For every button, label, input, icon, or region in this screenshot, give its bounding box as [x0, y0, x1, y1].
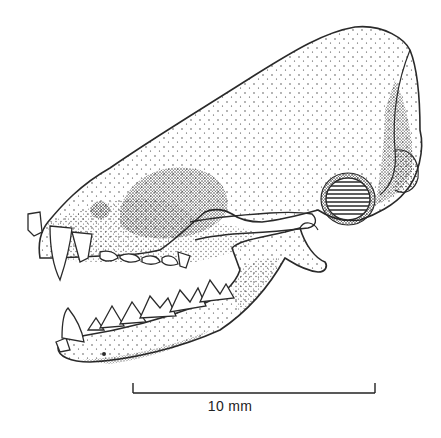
cranium	[39, 27, 421, 263]
lower-canine	[62, 308, 84, 342]
upper-incisors	[28, 212, 42, 236]
foramen-shading	[90, 201, 110, 219]
scale-bar	[133, 383, 375, 393]
lower-molar-1	[140, 296, 176, 318]
auditory-bulla	[320, 173, 376, 225]
mental-foramen	[102, 352, 106, 356]
scale-bar-label: 10 mm	[180, 398, 280, 414]
lower-molar-3	[200, 280, 234, 302]
skull-illustration	[0, 0, 441, 438]
lower-premolar-2	[100, 306, 124, 328]
